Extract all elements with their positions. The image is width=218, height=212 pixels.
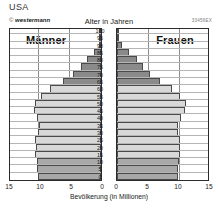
gridline-horizontal [117,128,208,129]
gridline-horizontal [117,99,208,100]
gridline-horizontal [117,92,208,93]
x-tick-label-female: 10 [174,183,181,190]
gridline-horizontal [117,77,208,78]
gridline-horizontal [117,135,208,136]
gridline-horizontal [10,84,101,85]
x-axis-title: Bevölkerung (in Millionen) [0,193,218,200]
gridline-horizontal [10,121,101,122]
gridline-horizontal [117,106,208,107]
gridline-horizontal [117,113,208,114]
gridline-horizontal [10,113,101,114]
gridline-horizontal [117,84,208,85]
age-tick-label: 80 [93,58,107,63]
age-tick-label: 60 [93,87,107,92]
age-tick-label: 90 [93,44,107,49]
age-axis-title: Alter in Jahren [0,17,218,26]
gridline-horizontal [10,48,101,49]
age-tick-label: 30 [93,131,107,136]
gridline-horizontal [117,121,208,122]
gridline-horizontal [10,172,101,173]
gridline-horizontal [10,55,101,56]
female-panel: Frauen [116,28,209,181]
gridline-horizontal [117,164,208,165]
age-tick-label: 20 [93,146,107,151]
gridline-horizontal [10,150,101,151]
gridline-horizontal [10,106,101,107]
age-tick-label: 50 [93,102,107,107]
age-tick-label: 75 [93,65,107,70]
gridline-horizontal [117,157,208,158]
x-tick-label-female: 0 [114,183,118,190]
gridline-horizontal [10,33,101,34]
gridline-horizontal [10,62,101,63]
x-tick-label-male: 0 [100,183,104,190]
gridline-horizontal [10,41,101,42]
pyramid-bar [117,173,178,180]
x-tick-label-female: 15 [205,183,212,190]
gridline-horizontal [117,33,208,34]
x-tick-label-male: 5 [69,183,73,190]
age-tick-label: 85 [93,51,107,56]
gridline-horizontal [10,135,101,136]
age-axis: 1009590858075706560555045403530252015105… [93,28,107,181]
age-tick-label: 15 [93,153,107,158]
x-tick-label-male: 15 [5,183,12,190]
age-tick-label: 5 [93,167,107,172]
pyramid-bar [38,173,101,180]
male-panel: Männer [9,28,102,181]
x-tick-label-female: 5 [145,183,149,190]
age-tick-label: 100 [93,29,107,34]
age-tick-label: 10 [93,160,107,165]
age-tick-label: 0 [93,175,107,180]
age-tick-label: 65 [93,80,107,85]
gridline-horizontal [10,164,101,165]
gridline-horizontal [117,55,208,56]
age-tick-label: 35 [93,124,107,129]
population-pyramid-chart: Männer Frauen [9,28,209,181]
gridline-horizontal [117,70,208,71]
age-tick-label: 25 [93,138,107,143]
gridline-horizontal [117,41,208,42]
gridline-horizontal [10,70,101,71]
gridline-horizontal [10,157,101,158]
age-tick-label: 70 [93,73,107,78]
age-tick-label: 45 [93,109,107,114]
gridline-horizontal [117,143,208,144]
gridline-horizontal [10,92,101,93]
gridline-horizontal [117,150,208,151]
gridline-horizontal [10,99,101,100]
gridline-horizontal [10,77,101,78]
age-tick-label: 55 [93,95,107,100]
catalog-code: 33456EX [192,18,212,23]
gridline-horizontal [10,143,101,144]
gridline-horizontal [117,172,208,173]
page-title: USA [9,2,29,12]
gridline-horizontal [10,128,101,129]
gridline-horizontal [117,48,208,49]
x-tick-label-male: 10 [36,183,43,190]
age-tick-label: 40 [93,116,107,121]
age-tick-label: 95 [93,36,107,41]
gridline-horizontal [117,62,208,63]
